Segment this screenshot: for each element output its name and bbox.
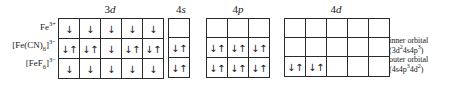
electron-arrows: ↓↑ bbox=[82, 42, 98, 58]
orbital-cell-3d-r1-c0[interactable]: ↓↑ bbox=[59, 39, 80, 59]
orbital-cell-4p-r1-c2[interactable]: ↓↑ bbox=[249, 38, 270, 58]
orbital-cell-3d-r2-c2[interactable]: ↓ bbox=[101, 59, 122, 79]
header-4s-letter: s bbox=[182, 3, 186, 15]
column-header-3d: 3d bbox=[58, 2, 162, 16]
electron-arrows: ↓ bbox=[149, 62, 157, 78]
orbital-cell-4p-r2-c0[interactable]: ↓↑ bbox=[207, 58, 228, 78]
orbital-grid-4p: ↓↑ ↓↑ ↓↑ ↓↑ ↓↑ ↓↑ bbox=[206, 18, 270, 78]
orbital-cell-3d-r1-c2[interactable]: ↓ bbox=[101, 39, 122, 59]
note-inner-orbital-config: (3d24s4p3) bbox=[389, 46, 453, 56]
orbital-cell-3d-r1-c3[interactable]: ↓↑ bbox=[122, 39, 143, 59]
orbital-cell-4d-r0-c2[interactable] bbox=[327, 19, 348, 38]
orbital-cell-4d-r2-c1[interactable]: ↓↑ bbox=[306, 57, 327, 77]
table-row: ↓↑ bbox=[169, 38, 190, 58]
column-header-4s: 4s bbox=[168, 2, 194, 16]
table-row: ↓ ↓ ↓ ↓ ↓ bbox=[59, 19, 164, 39]
orbital-cell-4p-r2-c1[interactable]: ↓↑ bbox=[228, 58, 249, 78]
electron-arrows: ↓↑ bbox=[308, 60, 324, 76]
orbital-cell-4d-r0-c0[interactable] bbox=[285, 19, 306, 38]
orbital-block-4p: ↓↑ ↓↑ ↓↑ ↓↑ ↓↑ ↓↑ bbox=[206, 18, 270, 78]
electron-arrows: ↓↑ bbox=[61, 42, 77, 58]
orbital-cell-3d-r1-c4[interactable]: ↓↑ bbox=[143, 39, 164, 59]
orbital-cell-3d-r2-c1[interactable]: ↓ bbox=[80, 59, 101, 79]
orbital-cell-3d-r0-c0[interactable]: ↓ bbox=[59, 19, 80, 39]
electron-arrows: ↓ bbox=[65, 62, 73, 78]
orbital-cell-4d-r2-c4[interactable] bbox=[369, 57, 390, 77]
table-row: ↓↑ ↓↑ ↓↑ bbox=[207, 58, 270, 78]
electron-arrows: ↓↑ bbox=[145, 42, 161, 58]
table-row bbox=[169, 19, 190, 38]
orbital-cell-4p-r1-c1[interactable]: ↓↑ bbox=[228, 38, 249, 58]
orbital-cell-4d-r1-c3[interactable] bbox=[348, 38, 369, 57]
row-label-hexacyanoferrate: [Fe(CN)6]3− bbox=[12, 36, 56, 54]
note-inner-mid: 4s4p bbox=[403, 46, 418, 55]
electron-arrows: ↓↑ bbox=[171, 41, 187, 57]
orbital-cell-4p-r0-c0[interactable] bbox=[207, 19, 228, 38]
orbital-cell-3d-r0-c2[interactable]: ↓ bbox=[101, 19, 122, 39]
note-outer-orbital-config: (4s4p34d2) bbox=[389, 65, 453, 75]
electron-arrows: ↓ bbox=[128, 62, 136, 78]
note-outer-orbital-title: outer orbital bbox=[389, 55, 453, 65]
electron-arrows: ↓↑ bbox=[209, 41, 225, 57]
row-label-fe3plus: Fe3+ bbox=[40, 18, 56, 36]
electron-arrows: ↓↑ bbox=[209, 61, 225, 77]
orbital-cell-3d-r2-c4[interactable]: ↓ bbox=[143, 59, 164, 79]
orbital-cell-4s-r2-c0[interactable]: ↓↑ bbox=[169, 58, 190, 78]
orbital-cell-4d-r1-c1[interactable] bbox=[306, 38, 327, 57]
orbital-cell-4d-r1-c4[interactable] bbox=[369, 38, 390, 57]
table-row bbox=[207, 19, 270, 38]
orbital-cell-4d-r2-c0[interactable]: ↓↑ bbox=[285, 57, 306, 77]
header-4d-letter: d bbox=[336, 3, 342, 15]
electron-arrows: ↓↑ bbox=[124, 42, 140, 58]
orbital-cell-3d-r2-c0[interactable]: ↓ bbox=[59, 59, 80, 79]
table-row: ↓↑ ↓↑ ↓↑ bbox=[207, 38, 270, 58]
electron-arrows: ↓ bbox=[107, 42, 115, 58]
electron-arrows: ↓↑ bbox=[230, 61, 246, 77]
orbital-cell-3d-r1-c1[interactable]: ↓↑ bbox=[80, 39, 101, 59]
orbital-cell-3d-r2-c3[interactable]: ↓ bbox=[122, 59, 143, 79]
orbital-cell-4p-r1-c0[interactable]: ↓↑ bbox=[207, 38, 228, 58]
orbital-grid-4d: ↓↑ ↓↑ bbox=[284, 18, 390, 77]
orbital-cell-4s-r0-c0[interactable] bbox=[169, 19, 190, 38]
note-inner-suffix: ) bbox=[421, 46, 424, 55]
note-inner-prefix: (3d bbox=[389, 46, 400, 55]
orbital-cell-4p-r0-c2[interactable] bbox=[249, 19, 270, 38]
electron-arrows: ↓ bbox=[86, 62, 94, 78]
electron-arrows: ↓ bbox=[65, 22, 73, 38]
orbital-cell-4d-r2-c2[interactable] bbox=[327, 57, 348, 77]
electron-arrows: ↓ bbox=[107, 22, 115, 38]
orbital-cell-3d-r0-c4[interactable]: ↓ bbox=[143, 19, 164, 39]
orbital-cell-4p-r0-c1[interactable] bbox=[228, 19, 249, 38]
table-row: ↓↑ ↓↑ ↓ ↓↑ ↓↑ bbox=[59, 39, 164, 59]
table-row bbox=[285, 38, 390, 57]
column-header-4p: 4p bbox=[206, 2, 270, 16]
electron-arrows: ↓↑ bbox=[251, 61, 267, 77]
orbital-cell-4d-r0-c1[interactable] bbox=[306, 19, 327, 38]
orbital-block-3d: ↓ ↓ ↓ ↓ ↓ ↓↑ ↓↑ ↓ ↓↑ ↓↑ ↓ ↓ ↓ ↓ ↓ bbox=[58, 18, 164, 79]
orbital-cell-4d-r0-c3[interactable] bbox=[348, 19, 369, 38]
electron-arrows: ↓↑ bbox=[251, 41, 267, 57]
orbital-grid-3d: ↓ ↓ ↓ ↓ ↓ ↓↑ ↓↑ ↓ ↓↑ ↓↑ ↓ ↓ ↓ ↓ ↓ bbox=[58, 18, 164, 79]
table-row bbox=[285, 19, 390, 38]
orbital-notes: inner orbital (3d24s4p3) outer orbital (… bbox=[389, 36, 453, 74]
orbital-cell-3d-r0-c3[interactable]: ↓ bbox=[122, 19, 143, 39]
electron-arrows: ↓ bbox=[149, 22, 157, 38]
orbital-cell-4d-r1-c0[interactable] bbox=[285, 38, 306, 57]
electron-arrows: ↓ bbox=[86, 22, 94, 38]
row-label-hexafluoroferrate: [FeF6]3− bbox=[26, 54, 56, 72]
orbital-block-4d: ↓↑ ↓↑ bbox=[284, 18, 390, 77]
orbital-cell-3d-r0-c1[interactable]: ↓ bbox=[80, 19, 101, 39]
table-row: ↓↑ bbox=[169, 58, 190, 78]
electron-arrows: ↓ bbox=[107, 62, 115, 78]
note-outer-prefix: (4s4p bbox=[389, 65, 407, 74]
note-inner-orbital-title: inner orbital bbox=[389, 36, 453, 46]
orbital-cell-4s-r1-c0[interactable]: ↓↑ bbox=[169, 38, 190, 58]
electron-arrows: ↓↑ bbox=[171, 61, 187, 77]
orbital-cell-4p-r2-c2[interactable]: ↓↑ bbox=[249, 58, 270, 78]
orbital-grid-4s: ↓↑ ↓↑ bbox=[168, 18, 190, 78]
note-outer-suffix: ) bbox=[421, 65, 424, 74]
orbital-cell-4d-r0-c4[interactable] bbox=[369, 19, 390, 38]
orbital-cell-4d-r1-c2[interactable] bbox=[327, 38, 348, 57]
orbital-cell-4d-r2-c3[interactable] bbox=[348, 57, 369, 77]
column-headers: 3d 4s 4p 4d bbox=[0, 2, 453, 18]
